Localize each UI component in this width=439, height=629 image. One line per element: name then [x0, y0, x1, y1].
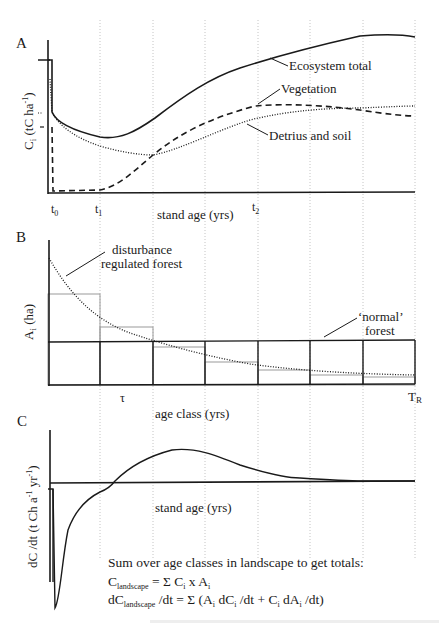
detritus-soil-line — [50, 79, 415, 155]
legend-ecosystem-total: Ecosystem total — [289, 58, 372, 73]
tick-t1: t1 — [95, 202, 102, 218]
tick-t0: t0 — [51, 202, 58, 218]
panel-a-label: A — [16, 35, 27, 51]
panel-a-y-label: Ci (tC ha-1) — [21, 92, 38, 150]
formula-c-landscape: Clandscape = Σ Ci x Ai — [108, 574, 211, 591]
panel-c-x-label: stand age (yrs) — [155, 500, 232, 515]
panel-c: C stand age (yrs) dC /dt (t Ch a-1 yr-1)… — [17, 413, 415, 609]
grid-lines — [100, 20, 415, 560]
bleed-through-artifact — [150, 620, 439, 623]
disturbance-bars — [48, 294, 415, 385]
figure: A Ecosystem total Vegetation Detrius and… — [0, 0, 439, 629]
panel-b: B disturbance — [16, 229, 422, 421]
legend-detritus-soil: Detrius and soil — [269, 128, 352, 143]
panel-a: A Ecosystem total Vegetation Detrius and… — [16, 35, 415, 222]
panel-a-x-axis — [48, 192, 415, 193]
panel-c-label: C — [17, 413, 27, 429]
annotation-normal-line2: forest — [365, 323, 395, 338]
legend-vegetation: Vegetation — [281, 81, 337, 96]
tick-t2: t2 — [252, 200, 259, 216]
panel-c-y-label: dC /dt (t Ch a-1 yr-1) — [25, 465, 40, 568]
panel-a-x-label: stand age (yrs) — [157, 207, 234, 222]
annotation-disturbance-line1: disturbance — [112, 242, 172, 257]
vegetation-line — [52, 105, 415, 191]
annotation-normal-line1: ‘normal’ — [358, 309, 403, 324]
tick-tau: τ — [120, 391, 125, 405]
formula-dc-landscape: dClandscape /dt = Σ (Ai dCi /dt + Ci dAi… — [108, 592, 324, 609]
panel-b-x-label: age class (yrs) — [155, 406, 229, 421]
annotation-disturbance-line2: regulated forest — [101, 256, 183, 271]
formula-intro: Sum over age classes in landscape to get… — [108, 555, 364, 570]
panel-b-x-axis — [48, 384, 415, 385]
panel-b-label: B — [16, 229, 26, 245]
ecosystem-total-line — [48, 35, 415, 138]
panel-b-y-label: Ai (ha) — [21, 304, 38, 340]
tick-tr: TR — [408, 389, 422, 405]
